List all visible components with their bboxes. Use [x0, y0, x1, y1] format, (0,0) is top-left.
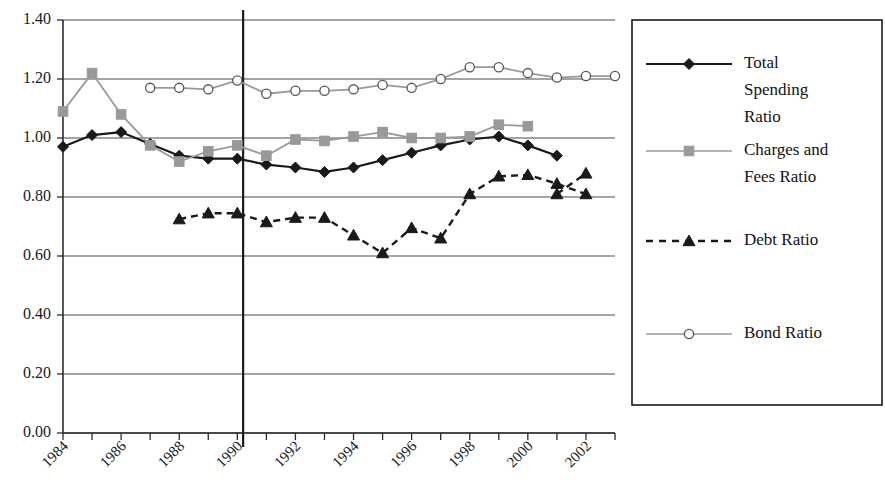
legend-item-debt-ratio[interactable]: Debt Ratio — [646, 230, 818, 249]
x-axis-tick-label: 1996 — [387, 437, 420, 470]
marker-circle — [233, 76, 242, 85]
line-chart: 0.000.200.400.600.801.001.201.40 1984198… — [0, 0, 885, 495]
marker-diamond — [58, 141, 69, 152]
series-charges-and-fees-ratio — [58, 68, 532, 166]
legend-item-charges-and-fees-ratio[interactable]: Charges andFees Ratio — [646, 140, 829, 186]
marker-circle — [378, 80, 387, 89]
marker-square — [494, 120, 504, 130]
marker-diamond — [377, 155, 388, 166]
y-axis-tick-label: 0.00 — [23, 423, 51, 440]
legend: TotalSpendingRatioCharges andFees RatioD… — [632, 20, 882, 405]
series-bond-ratio — [146, 63, 620, 99]
y-axis-tick-label: 1.20 — [23, 69, 51, 86]
marker-circle — [465, 63, 474, 72]
y-axis-tick-label: 0.40 — [23, 305, 51, 322]
marker-circle — [320, 86, 329, 95]
marker-square — [87, 68, 97, 78]
marker-diamond — [348, 162, 359, 173]
marker-circle — [291, 86, 300, 95]
marker-square — [523, 121, 533, 131]
marker-diamond — [522, 140, 533, 151]
marker-triangle — [406, 222, 418, 233]
series-debt-ratio — [173, 169, 592, 258]
legend-label: Bond Ratio — [744, 323, 822, 342]
marker-square — [349, 132, 359, 142]
x-axis-tick-label: 1984 — [39, 437, 72, 470]
marker-circle — [523, 69, 532, 78]
marker-square — [203, 146, 213, 156]
marker-square — [378, 127, 388, 137]
marker-circle — [610, 71, 619, 80]
legend-item-bond-ratio[interactable]: Bond Ratio — [646, 323, 822, 342]
marker-triangle — [580, 167, 592, 178]
marker-diamond — [319, 166, 330, 177]
legend-label: Fees Ratio — [744, 167, 816, 186]
marker-square — [233, 141, 243, 151]
marker-square — [58, 107, 68, 117]
marker-triangle — [318, 212, 330, 223]
marker-circle — [349, 85, 358, 94]
marker-circle — [175, 83, 184, 92]
marker-circle — [494, 63, 503, 72]
marker-diamond — [493, 131, 504, 142]
marker-square — [145, 141, 155, 151]
marker-circle — [407, 83, 416, 92]
marker-square — [684, 146, 694, 156]
marker-triangle — [348, 229, 360, 240]
marker-diamond — [684, 59, 695, 70]
axis-lines — [63, 20, 615, 433]
x-axis-tick-label: 2000 — [503, 438, 536, 471]
marker-square — [320, 136, 330, 146]
marker-triangle — [202, 207, 214, 218]
marker-circle — [436, 74, 445, 83]
x-axis-tick-labels: 1984198619881990199219941996199820002002 — [39, 437, 594, 470]
marker-square — [116, 110, 126, 120]
x-axis-tick-label: 1992 — [271, 438, 304, 471]
marker-diamond — [232, 153, 243, 164]
marker-diamond — [290, 162, 301, 173]
x-axis-tick-label: 1988 — [155, 438, 188, 471]
marker-square — [436, 133, 446, 143]
x-axis-tick-label: 1998 — [445, 438, 478, 471]
marker-square — [262, 151, 272, 161]
series-total-spending-ratio — [58, 127, 563, 178]
legend-label: Spending — [744, 80, 809, 99]
legend-box — [632, 20, 882, 405]
legend-label: Total — [744, 53, 779, 72]
marker-square — [174, 157, 184, 167]
x-axis-tick-label: 1990 — [213, 438, 246, 471]
marker-circle — [262, 89, 271, 98]
y-axis-tick-label: 0.80 — [23, 187, 51, 204]
marker-square — [465, 132, 475, 142]
marker-diamond — [116, 127, 127, 138]
marker-triangle — [683, 235, 695, 246]
y-axis-tick-label: 1.00 — [23, 128, 51, 145]
marker-circle — [204, 85, 213, 94]
marker-square — [291, 135, 301, 145]
marker-diamond — [406, 147, 417, 158]
marker-circle — [146, 83, 155, 92]
legend-label: Charges and — [744, 140, 829, 159]
y-axis-tick-label: 1.40 — [23, 10, 51, 27]
y-axis-tick-labels: 0.000.200.400.600.801.001.201.40 — [23, 10, 51, 440]
data-series-group — [58, 63, 620, 258]
marker-diamond — [551, 150, 562, 161]
marker-circle — [552, 73, 561, 82]
x-axis-tick-label: 1994 — [329, 437, 362, 470]
legend-item-total-spending-ratio[interactable]: TotalSpendingRatio — [646, 53, 809, 126]
y-axis-tick-label: 0.60 — [23, 246, 51, 263]
marker-diamond — [87, 130, 98, 141]
x-axis-tick-label: 2002 — [562, 438, 595, 471]
y-axis-tick-label: 0.20 — [23, 364, 51, 381]
legend-label: Ratio — [744, 107, 781, 126]
axis-ticks — [57, 20, 615, 440]
marker-circle — [684, 329, 693, 338]
grid-lines — [63, 20, 615, 433]
legend-label: Debt Ratio — [744, 230, 818, 249]
marker-circle — [581, 71, 590, 80]
marker-square — [407, 133, 417, 143]
marker-triangle — [464, 188, 476, 199]
x-axis-tick-label: 1986 — [97, 437, 130, 470]
chart-figure: 0.000.200.400.600.801.001.201.40 1984198… — [0, 0, 885, 495]
